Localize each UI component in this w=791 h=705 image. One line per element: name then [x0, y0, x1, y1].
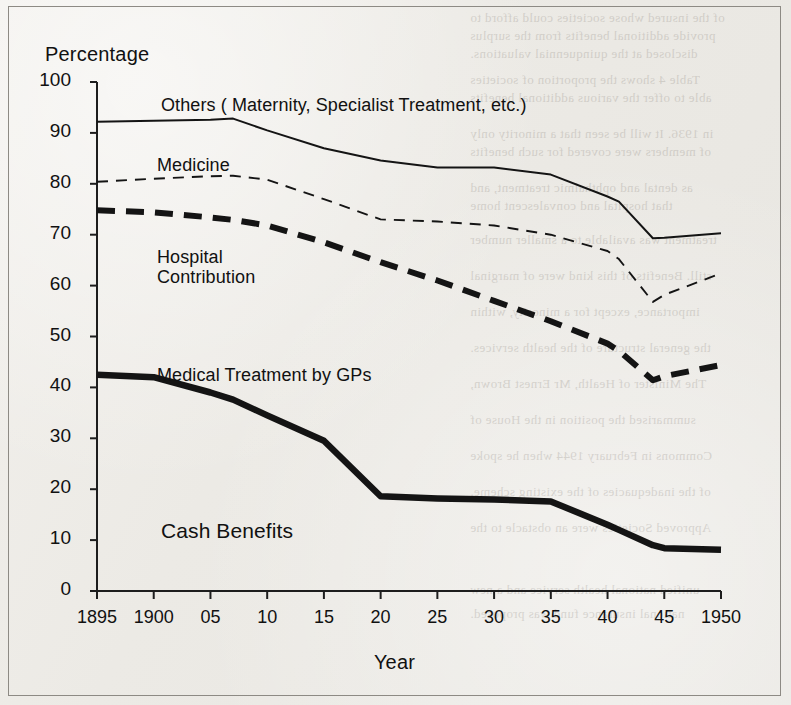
series-label-hospital-line2: Contribution: [157, 267, 255, 287]
line-hospital-contribution: [97, 210, 721, 380]
line-others: [97, 119, 721, 239]
series-label-hospital-contribution: Hospital Contribution: [157, 247, 255, 287]
series-label-cash-benefits: Cash Benefits: [161, 519, 293, 543]
series-label-others: Others ( Maternity, Specialist Treatment…: [161, 95, 526, 115]
series-label-hospital-line1: Hospital: [157, 247, 255, 267]
series-label-medical-treatment-by-gps: Medical Treatment by GPs: [157, 365, 371, 385]
series-label-medicine: Medicine: [157, 155, 230, 175]
chart-area: Percentage Year 1009080706050403020100 1…: [9, 7, 780, 695]
figure-frame: Percentage Year 1009080706050403020100 1…: [8, 6, 781, 696]
